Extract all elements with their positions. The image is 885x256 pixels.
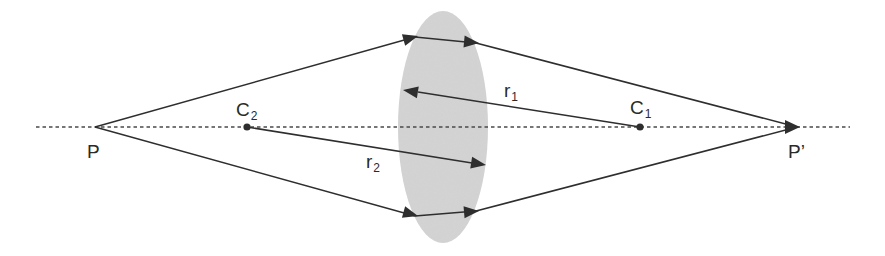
- radius-r1-label: r1: [504, 80, 518, 104]
- image-point-label: P’: [788, 141, 805, 162]
- center-c2-label: C2: [236, 99, 258, 123]
- center-c2-dot: [243, 123, 250, 130]
- arrowhead-icon: [785, 120, 800, 134]
- diagram-svg: P P’ C2 C1 r1 r2: [0, 0, 885, 256]
- center-c1-dot: [636, 123, 643, 130]
- lens-diagram: P P’ C2 C1 r1 r2: [0, 0, 885, 256]
- object-point-label: P: [87, 141, 100, 162]
- radius-r2-label: r2: [366, 151, 380, 175]
- center-c1-label: C1: [630, 97, 652, 121]
